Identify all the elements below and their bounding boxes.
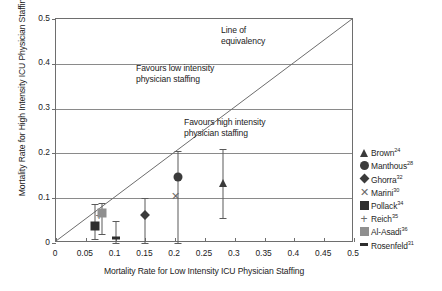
y-tick-label-0.5: 0.5 <box>20 13 50 23</box>
annotation-line-of-equivalency: Line of equivalency <box>221 25 265 46</box>
error-bar-cap <box>219 218 226 219</box>
legend-item-label: Manthous28 <box>371 160 413 171</box>
error-bar-cap <box>112 221 119 222</box>
y-tick-label-0.1: 0.1 <box>20 192 50 202</box>
y-tick-label-0.3: 0.3 <box>20 102 50 112</box>
legend-item-label: Reich35 <box>371 213 398 224</box>
triangle-marker <box>357 149 371 157</box>
legend-item-reich[interactable]: +Reich35 <box>357 212 442 225</box>
y-tick-label-0.4: 0.4 <box>20 57 50 67</box>
error-bar <box>115 221 116 243</box>
dash-marker <box>357 243 371 246</box>
legend: Brown24Manthous28Ghorra32✕Marini30Pollac… <box>357 146 442 252</box>
scatter-plot-figure: Mortality Rate for High Intensity ICU Ph… <box>0 0 442 291</box>
error-bar-cap <box>175 243 182 244</box>
x-marker: ✕ <box>357 187 371 197</box>
error-bar <box>145 198 146 243</box>
legend-item-brown[interactable]: Brown24 <box>357 146 442 159</box>
error-bar-cap <box>91 204 98 205</box>
annotation-favours-low-intensity: Favours low intensity physician staffing <box>136 63 214 84</box>
legend-item-al-asadi[interactable]: Al-Asadi36 <box>357 225 442 238</box>
data-point-marini: ✕ <box>170 191 180 201</box>
legend-item-label: Pollack34 <box>371 200 403 211</box>
y-tick-mark <box>52 243 56 244</box>
data-point-rosenfeld <box>112 236 120 239</box>
x-axis-label: Mortality Rate for Low Intensity ICU Phy… <box>55 266 353 276</box>
square-marker <box>357 201 371 210</box>
error-bar-cap <box>175 151 182 152</box>
error-bar-cap <box>219 149 226 150</box>
error-bar-cap <box>142 243 149 244</box>
legend-item-label: Ghorra32 <box>371 174 403 185</box>
legend-item-label: Brown24 <box>371 147 400 158</box>
plot-area: Line of equivalency Favours low intensit… <box>55 18 353 242</box>
legend-item-label: Marini30 <box>371 187 399 198</box>
data-point-al-asadi <box>98 208 107 217</box>
legend-item-marini[interactable]: ✕Marini30 <box>357 186 442 199</box>
legend-item-label: Al-Asadi36 <box>371 226 407 237</box>
data-point-brown <box>219 179 227 187</box>
legend-item-rosenfeld[interactable]: Rosenfeld31 <box>357 238 442 251</box>
data-point-pollack <box>90 222 99 231</box>
legend-item-ghorra[interactable]: Ghorra32 <box>357 172 442 185</box>
y-tick-label-0.2: 0.2 <box>20 147 50 157</box>
x-tick-mark <box>354 238 355 242</box>
legend-item-label: Rosenfeld31 <box>371 240 414 251</box>
error-bar-cap <box>99 234 106 235</box>
plus-marker: + <box>357 214 371 224</box>
annotation-favours-high-intensity: Favours high intensity physician staffin… <box>184 117 265 138</box>
error-bar-cap <box>99 203 106 204</box>
legend-item-pollack[interactable]: Pollack34 <box>357 199 442 212</box>
error-bar-cap <box>142 198 149 199</box>
error-bar-cap <box>112 243 119 244</box>
data-point-manthous <box>174 172 183 181</box>
y-tick-label-0: 0 <box>20 237 50 247</box>
diamond-marker <box>357 175 371 182</box>
error-bar-cap <box>91 239 98 240</box>
gray-square-marker <box>357 227 371 236</box>
legend-item-manthous[interactable]: Manthous28 <box>357 159 442 172</box>
circle-marker <box>357 161 371 170</box>
